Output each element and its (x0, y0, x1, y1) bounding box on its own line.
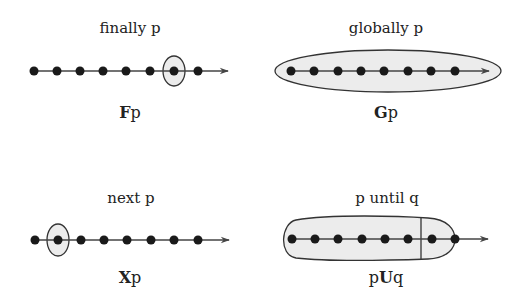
panel-formula: Xp (119, 268, 142, 287)
panel-title: globally p (349, 19, 423, 37)
panel-title: p until q (355, 189, 419, 207)
panel-globally: globally p Gp (275, 19, 501, 122)
panel-formula: pUq (369, 268, 403, 287)
panel-finally: finally p Fp (30, 19, 229, 122)
ltr-operators-diagram: finally p Fp globally p Gp next p Xp p u… (0, 0, 520, 299)
panel-next: next p Xp (31, 189, 230, 287)
panel-title: finally p (99, 19, 160, 37)
panel-title: next p (107, 189, 154, 207)
panel-until: p until q pUq (284, 189, 488, 287)
panel-formula: Gp (374, 103, 398, 122)
panel-formula: Fp (119, 103, 141, 122)
